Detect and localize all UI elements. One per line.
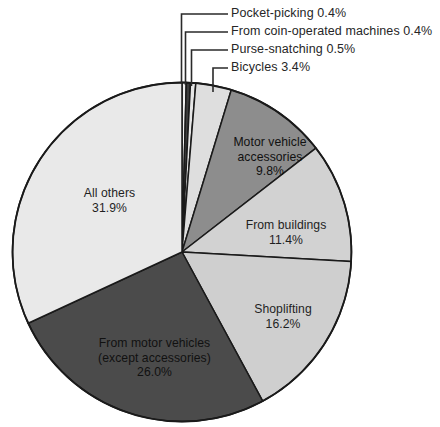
- slice-label-line: accessories: [218, 150, 322, 165]
- leader-line-group: [182, 14, 229, 92]
- slice-label-from-buildings: From buildings 11.4%: [231, 218, 341, 247]
- leader-line-pocket-picking: [182, 14, 229, 84]
- slice-label-line: Motor vehicle: [218, 135, 322, 150]
- slice-label-all-others: All others 31.9%: [57, 186, 162, 215]
- callout-label-coin-operated-machines: From coin-operated machines 0.4%: [231, 24, 432, 38]
- slice-label-value: 31.9%: [57, 201, 162, 216]
- slice-label-line: From buildings: [231, 218, 341, 233]
- slice-label-line: Shoplifting: [233, 302, 333, 317]
- slice-label-value: 11.4%: [231, 233, 341, 248]
- slice-label-value: 9.8%: [218, 164, 322, 179]
- pie-chart-figure: Pocket-picking 0.4% From coin-operated m…: [0, 0, 440, 427]
- slice-label-line: From motor vehicles: [77, 336, 232, 351]
- callout-label-purse-snatching: Purse-snatching 0.5%: [231, 42, 355, 56]
- callout-label-bicycles: Bicycles 3.4%: [231, 60, 310, 74]
- slice-label-value: 26.0%: [77, 365, 232, 380]
- slice-label-line: All others: [57, 186, 162, 201]
- slice-label-from-motor-vehicles: From motor vehicles (except accessories)…: [77, 336, 232, 380]
- slice-label-value: 16.2%: [233, 317, 333, 332]
- slice-label-shoplifting: Shoplifting 16.2%: [233, 302, 333, 331]
- callout-label-pocket-picking: Pocket-picking 0.4%: [231, 6, 346, 20]
- slice-label-motor-vehicle-accessories: Motor vehicle accessories 9.8%: [218, 135, 322, 179]
- slice-label-line: (except accessories): [77, 351, 232, 366]
